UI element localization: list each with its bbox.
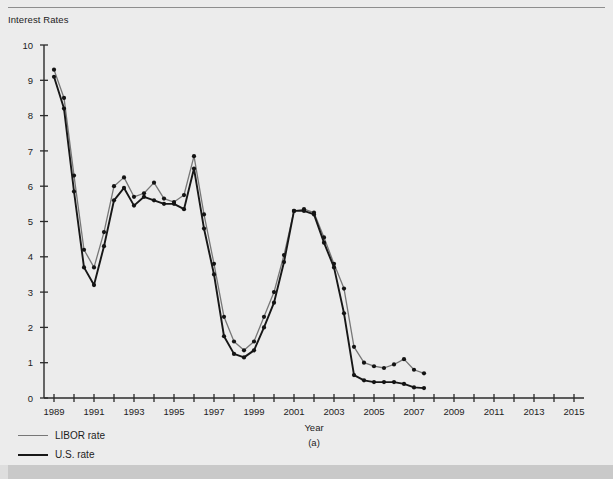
data-point-marker [182,207,186,211]
data-point-marker [242,348,246,352]
x-tick-label: 2001 [283,406,304,417]
data-point-marker [212,272,216,276]
data-point-marker [392,362,396,366]
data-point-marker [172,202,176,206]
data-point-marker [62,106,66,110]
data-point-marker [332,265,336,269]
x-tick-label: 2015 [563,406,584,417]
data-point-marker [102,230,106,234]
data-point-marker [352,373,356,377]
data-point-marker [162,202,166,206]
legend-item-libor: LIBOR rate [18,426,188,445]
x-tick-label: 1995 [163,406,184,417]
data-point-marker [82,265,86,269]
data-point-marker [392,380,396,384]
data-point-marker [342,286,346,290]
chart-canvas: 012345678910 198919911993199519971999200… [0,0,613,479]
bottom-band-corner [0,465,8,479]
data-point-marker [152,198,156,202]
x-tick-label: 2013 [523,406,544,417]
data-point-marker [252,339,256,343]
legend-swatch-us-icon [18,454,48,456]
data-point-marker [192,154,196,158]
data-point-marker [352,345,356,349]
data-point-marker [232,339,236,343]
data-point-marker [362,378,366,382]
data-point-marker [272,301,276,305]
x-tick-label: 2009 [443,406,464,417]
x-tick-label: 1991 [83,406,104,417]
data-point-marker [312,212,316,216]
data-point-marker [412,385,416,389]
y-tick-label: 0 [28,393,33,404]
data-point-marker [362,361,366,365]
data-point-marker [372,364,376,368]
x-tick-label: 1993 [123,406,144,417]
y-tick-label: 3 [28,287,33,298]
panel-label: (a) [308,437,320,448]
y-tick-label: 4 [28,251,33,262]
data-point-marker [122,186,126,190]
data-point-marker [262,315,266,319]
data-point-marker [222,334,226,338]
data-point-marker [202,226,206,230]
data-point-marker [72,189,76,193]
data-point-marker [372,380,376,384]
data-series-layer [52,68,426,391]
data-point-marker [102,244,106,248]
x-tick-label: 2011 [484,406,504,417]
legend-label-libor: LIBOR rate [55,430,105,441]
data-point-marker [142,195,146,199]
x-tick-label: 1997 [203,406,224,417]
bottom-band [0,465,613,479]
data-point-marker [62,96,66,100]
legend-label-us: U.S. rate [55,449,94,460]
data-point-marker [162,196,166,200]
data-point-marker [342,311,346,315]
data-point-marker [232,352,236,356]
x-tick-label: 1989 [43,406,64,417]
y-tick-label: 5 [28,216,33,227]
data-point-marker [132,195,136,199]
data-point-marker [52,75,56,79]
x-tick-label: 2003 [323,406,344,417]
data-point-marker [292,209,296,213]
data-point-marker [242,355,246,359]
legend-item-us: U.S. rate [18,445,188,464]
data-point-marker [282,260,286,264]
data-point-marker [152,181,156,185]
data-point-marker [192,166,196,170]
data-point-marker [132,204,136,208]
legend: LIBOR rate U.S. rate [18,426,188,464]
y-tick-label: 7 [28,146,33,157]
data-point-marker [262,325,266,329]
legend-swatch-libor-icon [18,435,48,436]
y-tick-label: 8 [28,110,33,121]
data-point-marker [222,315,226,319]
data-point-marker [92,283,96,287]
figure-panel: Interest Rates 012345678910 198919911993… [0,0,613,479]
data-point-marker [92,265,96,269]
data-point-marker [302,209,306,213]
x-axis-title: Year [304,422,323,433]
y-tick-label: 9 [28,75,33,86]
data-point-marker [52,68,56,72]
data-point-marker [122,175,126,179]
data-point-marker [112,184,116,188]
y-tick-label: 1 [28,357,33,368]
data-point-marker [322,241,326,245]
series-line [54,77,424,388]
x-tick-label: 2007 [403,406,424,417]
data-point-marker [182,193,186,197]
data-point-marker [402,357,406,361]
y-tick-label: 10 [22,40,33,51]
y-tick-label: 6 [28,181,33,192]
data-point-marker [412,368,416,372]
data-point-marker [422,371,426,375]
data-point-marker [382,366,386,370]
x-tick-label: 2005 [363,406,384,417]
data-point-marker [422,386,426,390]
x-tick-label: 1999 [243,406,264,417]
y-tick-label: 2 [28,322,33,333]
data-point-marker [382,380,386,384]
